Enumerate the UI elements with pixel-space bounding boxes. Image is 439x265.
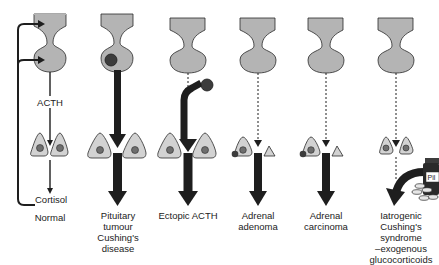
excess-cortisol-arrow: [113, 153, 122, 193]
acth-label: ACTH: [36, 97, 64, 108]
excess-cortisol-arrow: [254, 153, 262, 193]
column-adrenal-carcinoma: [300, 18, 344, 206]
ectopic-acth-arrow: [184, 83, 201, 140]
pituitary-gland: [170, 18, 206, 73]
adrenal-adenoma-mass: [232, 151, 239, 158]
adrenal-carcinoma-mass: [300, 151, 307, 158]
feedback-loop-arrow: [18, 20, 45, 205]
column-ectopic-acth: [158, 18, 216, 206]
column-adrenal-adenoma: [232, 18, 276, 206]
pituitary-gland: [378, 18, 414, 73]
column-pituitary-tumour: [88, 14, 146, 206]
pill-bottle-label: Pil: [428, 174, 436, 181]
exogenous-glucocorticoid-arrow: [396, 172, 424, 192]
caption-normal: Normal: [26, 212, 74, 223]
caption-pituitary-tumour: Pituitary tumour Cushing's disease: [90, 210, 146, 254]
pituitary-gland: [101, 14, 133, 72]
column-normal: [18, 14, 68, 205]
excess-acth-arrow: [114, 70, 121, 136]
cortisol-label: Cortisol: [35, 194, 67, 205]
caption-iatrogenic: Iatrogenic Cushing's syndrome –exogenous…: [366, 210, 436, 265]
caption-adrenal-carcinoma: Adrenal carcinoma: [298, 210, 354, 232]
atrophic-cell: [332, 146, 343, 156]
caption-ectopic-acth: Ectopic ACTH: [155, 210, 221, 221]
column-iatrogenic: Pil: [378, 18, 439, 206]
adrenal-cells: [300, 137, 343, 157]
adrenal-cells: [232, 137, 275, 157]
excess-cortisol-arrow: [322, 153, 330, 193]
ectopic-tumour: [201, 79, 213, 91]
excess-cortisol-arrow: [184, 153, 193, 193]
caption-adrenal-adenoma: Adrenal adenoma: [232, 210, 284, 232]
pituitary-tumour-mass: [105, 54, 117, 66]
pituitary-gland: [308, 18, 344, 73]
pituitary-gland: [240, 18, 276, 73]
atrophic-cell: [264, 146, 275, 156]
